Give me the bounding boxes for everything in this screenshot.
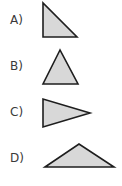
triangle-a-right[interactable] [43,3,77,37]
triangle-c-pointing-right[interactable] [43,99,90,127]
triangle-d-obtuse[interactable] [45,144,114,167]
triangle-options-diagram [0,0,122,186]
triangle-b-isosceles[interactable] [43,50,78,84]
